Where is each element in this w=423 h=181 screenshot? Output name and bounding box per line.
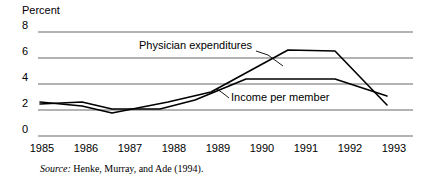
y-axis-title: Percent — [22, 4, 60, 16]
y-tick-label-2: 2 — [22, 97, 38, 109]
x-tick-label-1985: 1985 — [22, 142, 62, 154]
x-tick-label-1986: 1986 — [66, 142, 106, 154]
series-annotation-income-per-member: Income per member — [231, 91, 329, 103]
x-tick-label-1989: 1989 — [198, 142, 238, 154]
y-tick-label-6: 6 — [22, 45, 38, 57]
source-note: Source: Henke, Murray, and Ade (1994). — [40, 163, 203, 174]
x-tick-label-1992: 1992 — [330, 142, 370, 154]
x-tick-label-1990: 1990 — [242, 142, 282, 154]
source-text: Henke, Murray, and Ade (1994). — [71, 163, 204, 174]
y-tick-label-8: 8 — [22, 19, 38, 31]
y-tick-label-4: 4 — [22, 71, 38, 83]
y-tick-label-0: 0 — [22, 123, 38, 135]
x-tick-label-1991: 1991 — [286, 142, 326, 154]
leader-line-income-per-member — [217, 89, 229, 98]
source-label: Source: — [40, 163, 71, 174]
chart-figure: Percent 8 6 4 2 0 1985 1986 1987 1988 19… — [0, 0, 423, 181]
x-tick-label-1993: 1993 — [374, 142, 414, 154]
x-tick-label-1987: 1987 — [110, 142, 150, 154]
x-tick-label-1988: 1988 — [154, 142, 194, 154]
series-annotation-physician-expenditures: Physician expenditures — [139, 39, 252, 51]
